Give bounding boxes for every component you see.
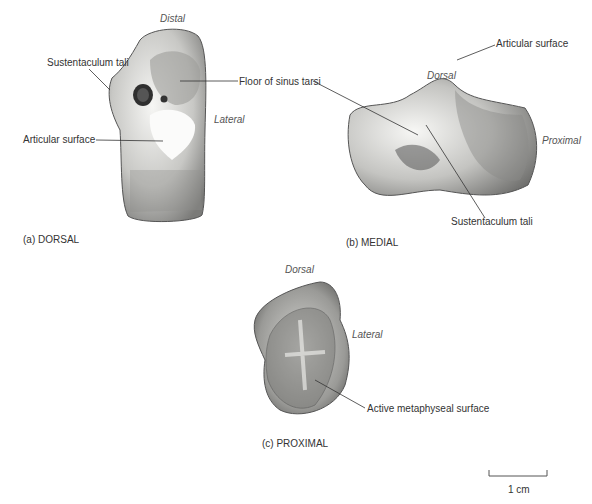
label-articular-a: Articular surface — [23, 134, 95, 146]
label-dorsal-b: Dorsal — [427, 70, 456, 82]
label-lateral-c: Lateral — [352, 329, 383, 341]
label-dorsal-c: Dorsal — [285, 264, 314, 276]
label-metaphyseal: Active metaphyseal surface — [367, 403, 489, 415]
label-proximal: Proximal — [542, 135, 581, 147]
scale-bar-line — [489, 470, 547, 476]
bone-b-medial — [348, 79, 537, 196]
label-articular-b: Articular surface — [496, 38, 568, 50]
caption-a: (a) DORSAL — [23, 234, 79, 246]
caption-c: (c) PROXIMAL — [262, 438, 328, 450]
caption-b: (b) MEDIAL — [346, 237, 398, 249]
label-distal: Distal — [160, 13, 185, 25]
scale-bar-label: 1 cm — [508, 484, 530, 496]
bone-c-proximal — [254, 282, 349, 414]
label-sustentaculum-b: Sustentaculum tali — [451, 216, 533, 228]
label-lateral-a: Lateral — [214, 114, 245, 126]
label-floor-sinus: Floor of sinus tarsi — [239, 76, 321, 88]
label-sustentaculum-a: Sustentaculum tali — [47, 57, 129, 69]
